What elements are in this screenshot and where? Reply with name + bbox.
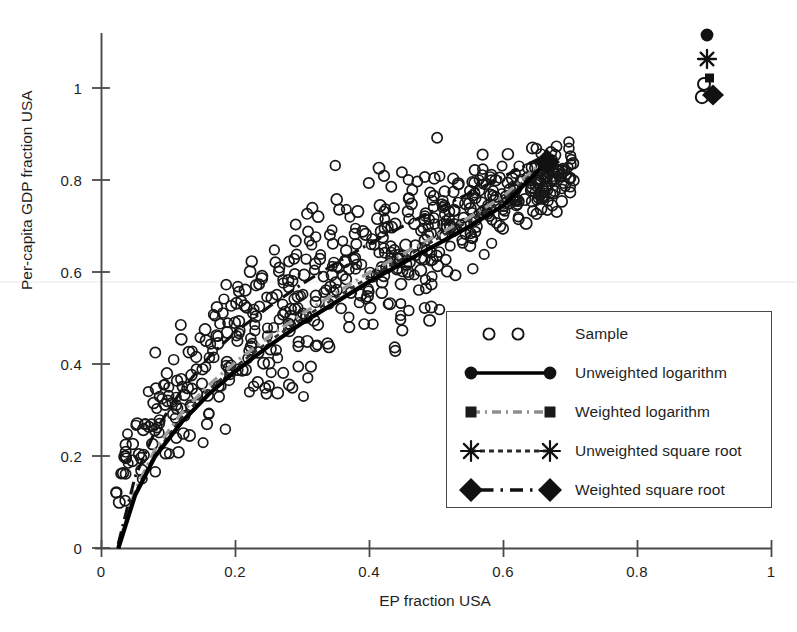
scatter-point [351, 239, 361, 249]
legend-label-weighted-logarithm: Weighted logarithm [575, 403, 710, 421]
scatter-point [487, 239, 497, 249]
scatter-point [161, 368, 172, 379]
scatter-point [424, 315, 435, 326]
scatter-point [468, 264, 478, 274]
legend: Sample Unweighted logarithm Weighted [446, 311, 772, 508]
scatter-point [397, 167, 407, 177]
scatter-point [477, 149, 488, 160]
scatter-point [331, 194, 342, 205]
scatter-point [446, 241, 455, 250]
x-tick-label-0.4: 0.4 [358, 563, 379, 580]
scatter-point [250, 326, 260, 336]
x-tick-label-1: 1 [767, 563, 776, 580]
x-tick-label-0.8: 0.8 [626, 563, 647, 580]
scatter-point [150, 347, 160, 357]
scatter-point [176, 334, 187, 345]
legend-item-weighted-logarithm[interactable]: Weighted logarithm [447, 392, 773, 431]
y-tick-label-0.4: 0.4 [30, 356, 82, 373]
y-tick-label-1: 1 [30, 80, 82, 97]
scatter-point [169, 355, 179, 365]
legend-label-sample: Sample [575, 325, 628, 343]
reference-filled-circle-icon [701, 29, 714, 42]
scatter-point [342, 205, 351, 214]
scatter-point [123, 429, 132, 438]
legend-item-weighted-square-root[interactable]: Weighted square root [447, 470, 773, 509]
scatter-point [502, 149, 513, 160]
reference-small-square-icon [705, 74, 714, 83]
y-tick-label-0: 0 [30, 540, 82, 557]
legend-item-unweighted-logarithm[interactable]: Unweighted logarithm [447, 353, 773, 392]
reference-marker-cluster [696, 29, 724, 106]
legend-label-unweighted-logarithm: Unweighted logarithm [575, 364, 727, 382]
x-axis-title: EP fraction USA [379, 592, 491, 610]
scatter-point [114, 497, 125, 508]
scatter-point [352, 206, 363, 217]
scatter-point [497, 161, 506, 170]
scatter-point [246, 256, 257, 267]
scatter-point [197, 378, 207, 388]
scatter-point [379, 171, 390, 182]
scatter-point [344, 322, 355, 333]
reference-asterisk-icon [698, 50, 716, 68]
scatter-point [404, 306, 414, 316]
scatter-point [364, 178, 374, 188]
scatter-point [198, 438, 207, 447]
scatter-point [272, 387, 283, 398]
legend-label-weighted-square-root: Weighted square root [575, 481, 725, 499]
scatter-point [396, 299, 405, 308]
scatter-point [267, 368, 276, 377]
scatter-point [176, 320, 186, 330]
scatter-point [397, 325, 408, 336]
x-tick-label-0: 0 [97, 563, 106, 580]
legend-item-sample[interactable]: Sample [447, 314, 773, 353]
scatter-point [221, 424, 231, 434]
legend-key-sample-icon [447, 314, 575, 353]
scatter-point [564, 137, 574, 147]
scatter-point [301, 254, 311, 264]
scatter-point [373, 163, 384, 174]
scatter-point [299, 392, 308, 401]
scatter-point [336, 303, 346, 313]
chart-figure: 1 0.8 0.6 0.4 0.2 0 0 0.2 0.4 0.6 0.8 1 … [0, 0, 797, 632]
scatter-point [290, 235, 301, 246]
scatter-point [432, 133, 442, 143]
scatter-point [376, 287, 387, 298]
scatter-point [291, 219, 301, 229]
scatter-point [270, 245, 280, 255]
scatter-point [386, 182, 396, 192]
scatter-point [313, 211, 324, 222]
scatter-point [221, 280, 231, 290]
scatter-point [202, 419, 213, 430]
y-axis-title: Per-capita GDP fraction USA [18, 90, 36, 290]
scatter-point [344, 312, 354, 322]
scatter-point [278, 368, 288, 378]
scatter-point [245, 266, 256, 277]
scatter-point [338, 236, 347, 245]
scatter-point [414, 285, 424, 295]
scatter-point [150, 467, 160, 477]
legend-key-weighted-square-root-icon [447, 470, 575, 509]
x-tick-label-0.2: 0.2 [224, 563, 245, 580]
scatter-point [330, 161, 340, 171]
legend-key-unweighted-square-root-icon [447, 431, 575, 470]
scatter-point [214, 392, 224, 402]
x-tick-label-0.6: 0.6 [492, 563, 513, 580]
y-tick-label-0.2: 0.2 [30, 448, 82, 465]
scatter-point [184, 430, 195, 441]
scatter-point [287, 383, 297, 393]
legend-item-unweighted-square-root[interactable]: Unweighted square root [447, 431, 773, 470]
legend-label-unweighted-square-root: Unweighted square root [575, 442, 742, 460]
legend-key-weighted-logarithm-icon [447, 392, 575, 431]
y-tick-label-0.6: 0.6 [30, 264, 82, 281]
scatter-point [479, 250, 488, 259]
scatter-point [396, 279, 407, 290]
y-tick-label-0.8: 0.8 [30, 172, 82, 189]
scatter-point [293, 361, 303, 371]
legend-key-unweighted-logarithm-icon [447, 353, 575, 392]
scatter-point [310, 265, 319, 274]
scatter-point [303, 373, 313, 383]
scatter-point [306, 361, 317, 372]
